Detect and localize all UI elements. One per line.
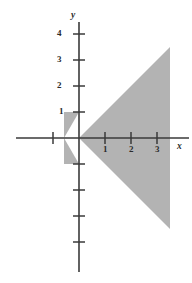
graph-figure: 4 3 2 1 1 2 3 x y [0, 0, 192, 283]
y-tick-label-2: 2 [57, 81, 62, 90]
y-axis-label: y [71, 11, 75, 21]
x-tick-label-3: 3 [155, 145, 160, 154]
x-tick-label-1: 1 [103, 145, 108, 154]
x-axis-label: x [177, 142, 182, 152]
y-tick-label-3: 3 [57, 55, 62, 64]
x-tick-label-2: 2 [129, 145, 134, 154]
y-tick-label-4: 4 [57, 29, 62, 38]
y-tick-label-1: 1 [59, 107, 64, 116]
coordinate-plane [0, 0, 192, 283]
